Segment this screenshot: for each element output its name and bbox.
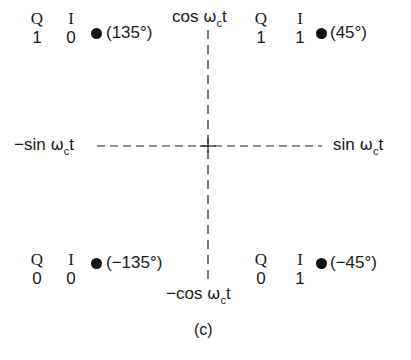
axis-label-neg-cos: −cos ωct (166, 284, 231, 305)
omega-symbol: ω (207, 284, 220, 303)
subscript: c (373, 145, 379, 157)
i-bit: 1 (292, 28, 308, 48)
q-header: Q (29, 9, 45, 29)
axis-label-cos: cos ωct (172, 7, 227, 28)
q-bit: 0 (253, 269, 269, 289)
phase-label: (−135°) (106, 253, 162, 273)
i-bit: 0 (63, 269, 79, 289)
omega-symbol: ω (359, 135, 372, 154)
phase-label: (45°) (330, 23, 367, 43)
phase-label: (−45°) (330, 253, 377, 273)
symbol-dot-icon (91, 28, 102, 39)
axis-label-text: t (226, 284, 231, 303)
axis-label-text: t (69, 135, 74, 154)
q-bit: 1 (29, 28, 45, 48)
axis-label-text: sin (333, 135, 359, 154)
q-header: Q (29, 250, 45, 270)
q-bit: 1 (253, 28, 269, 48)
i-bit: 0 (63, 28, 79, 48)
axis-label-text: t (222, 7, 227, 26)
axis-label-neg-sin: −sin ωct (14, 135, 74, 156)
i-header: I (292, 250, 308, 270)
symbol-dot-icon (316, 258, 327, 269)
i-header: I (292, 9, 308, 29)
subscript: c (64, 145, 70, 157)
figure-caption: (c) (194, 321, 213, 339)
q-bit: 0 (29, 269, 45, 289)
subscript: c (221, 294, 227, 306)
phase-label: (135°) (106, 23, 152, 43)
symbol-dot-icon (91, 258, 102, 269)
i-bit: 1 (292, 269, 308, 289)
omega-symbol: ω (203, 7, 216, 26)
subscript: c (217, 17, 223, 29)
omega-symbol: ω (50, 135, 63, 154)
axis-label-text: t (378, 135, 383, 154)
constellation-axes (0, 0, 411, 360)
axis-label-text: cos (172, 7, 203, 26)
axis-label-sin: sin ωct (333, 135, 383, 156)
i-header: I (63, 9, 79, 29)
axis-label-text: −sin (14, 135, 50, 154)
i-header: I (63, 250, 79, 270)
q-header: Q (253, 9, 269, 29)
axis-label-text: −cos (166, 284, 207, 303)
q-header: Q (253, 250, 269, 270)
symbol-dot-icon (316, 28, 327, 39)
